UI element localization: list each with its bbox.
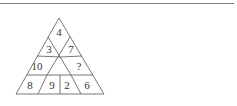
middle-left-divider xyxy=(37,56,60,57)
cell-bottom-1: 8 xyxy=(27,79,33,91)
number-triangle-puzzle: 4 3 7 10 ? 8 9 2 6 xyxy=(0,0,237,106)
cell-upper-right: 7 xyxy=(68,43,74,55)
cell-middle-left: 10 xyxy=(32,60,44,72)
cell-bottom-3: 2 xyxy=(64,79,70,91)
cell-bottom-2: 9 xyxy=(49,79,55,91)
bottom-divider-3 xyxy=(71,75,81,94)
cell-top: 4 xyxy=(56,26,62,38)
cell-upper-left: 3 xyxy=(46,43,52,55)
cell-bottom-4: 6 xyxy=(84,79,90,91)
middle-right-divider xyxy=(60,56,82,57)
cell-middle-right: ? xyxy=(77,60,82,72)
bottom-divider-1 xyxy=(38,75,47,94)
